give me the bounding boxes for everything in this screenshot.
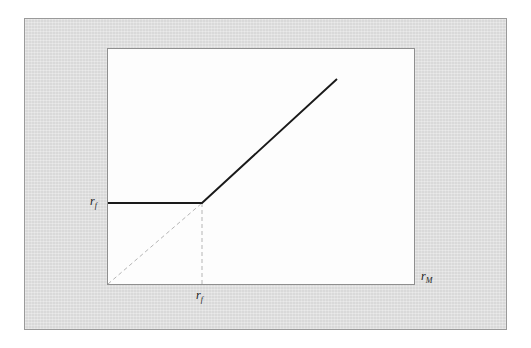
x-axis-market-label: rM [421,270,432,285]
x-axis-riskfree-subscript: f [201,295,203,304]
y-axis-riskfree-subscript: f [95,201,97,210]
figure-container: rf rf rM [0,0,531,348]
y-axis-riskfree-label: rf [90,195,97,210]
x-axis-riskfree-label: rf [196,289,203,304]
plot-area [107,48,415,285]
x-axis-market-subscript: M [426,276,433,285]
